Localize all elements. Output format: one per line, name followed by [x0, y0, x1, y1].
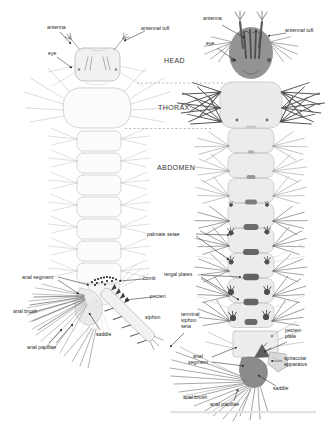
label-thorax-region: THORAX: [158, 104, 190, 112]
label-head-region: HEAD: [164, 57, 185, 65]
label-siphon: siphon: [145, 314, 160, 320]
label-abdomen-region: ABDOMEN: [157, 164, 195, 172]
left-abdomen: [77, 131, 121, 283]
right-anal-brush: [170, 347, 251, 421]
label-anal-segment-left: anal segment: [22, 274, 53, 280]
right-thorax: [175, 74, 326, 134]
arrow-palmate-setae-1: [196, 234, 229, 235]
left-head: [65, 33, 129, 81]
label-antenna-left: antenna: [47, 24, 66, 30]
label-antennal-tuft-left: antennal tuft: [141, 25, 170, 31]
right-antennal-tufts: [235, 11, 267, 20]
arrow-palmate-setae-2: [196, 236, 229, 260]
label-eye-right: eye: [206, 40, 214, 46]
arrow-antennal-tuft-right: [268, 33, 286, 36]
right-eye-2: [267, 58, 271, 62]
label-palmate-setae: palmate setae: [147, 231, 180, 237]
label-terminal-siphon-seta: terminal siphon seta: [181, 311, 205, 329]
label-spiracular-apparatus: spiracular apparatus: [284, 355, 314, 367]
arrow-comb: [119, 279, 144, 281]
label-tergal-plates: tergal plates: [164, 271, 192, 277]
label-saddle-right: saddle: [273, 385, 288, 391]
label-antennal-tuft-right: antennal tuft: [285, 27, 314, 33]
label-saddle-left: saddle: [96, 331, 111, 337]
label-eye-left: eye: [48, 50, 56, 56]
arrow-eye-left: [57, 57, 72, 68]
left-anal-papillae: [64, 326, 96, 368]
right-saddle-mark: [239, 357, 267, 388]
label-pecten-plate: pecten plate: [285, 327, 305, 339]
label-anal-papillae-left: anal papillae: [27, 344, 56, 350]
label-anal-papillae-right: anal papillae: [210, 401, 239, 407]
label-antenna-right: antenna: [203, 15, 222, 21]
label-anal-brush-right: anal brush: [183, 394, 207, 400]
label-comb: comb: [143, 275, 156, 281]
label-anal-segment-right: anal segment: [186, 353, 210, 365]
arrow-antennal-tuft-left: [124, 31, 145, 41]
arrow-anal-segment-right-2: [212, 362, 244, 366]
arrow-anal-papillae-right: [234, 389, 238, 401]
left-eye-2: [115, 68, 118, 71]
left-eye: [78, 68, 81, 71]
label-anal-brush-left: anal brush: [13, 308, 37, 314]
figure-mosquito-larvae-anatomy: antenna antennal tuft eye HEAD antenna a…: [0, 0, 330, 425]
arrow-pecten: [125, 297, 152, 300]
baseline-rule: [170, 411, 316, 413]
label-pecten: pecten: [150, 293, 166, 299]
arrow-terminal-siphon-seta: [170, 333, 184, 347]
right-head: [229, 11, 273, 79]
